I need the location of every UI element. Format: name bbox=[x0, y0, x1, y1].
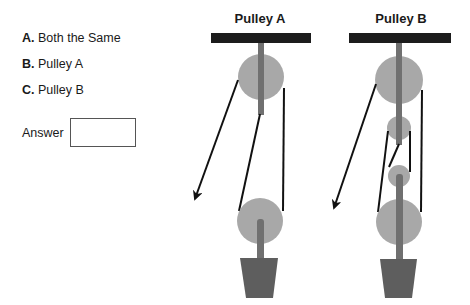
load-weight bbox=[380, 259, 417, 298]
load-weight bbox=[240, 258, 278, 298]
ceiling-beam bbox=[211, 33, 311, 43]
rope-segment bbox=[378, 131, 388, 212]
pulley-b-diagram bbox=[335, 33, 451, 298]
rope-segment bbox=[389, 144, 399, 167]
pulley-a-diagram bbox=[196, 33, 311, 298]
load-rod bbox=[257, 219, 264, 261]
pulley-diagrams bbox=[0, 0, 470, 305]
hanger-rod bbox=[396, 43, 402, 145]
load-rod bbox=[396, 174, 403, 262]
rope-segment bbox=[239, 114, 260, 211]
pull-arrow bbox=[196, 80, 238, 196]
rope-segment bbox=[421, 90, 422, 212]
ceiling-beam bbox=[349, 33, 451, 43]
hanger-rod bbox=[258, 43, 264, 115]
rope-segment bbox=[283, 88, 284, 211]
pull-arrow bbox=[335, 84, 376, 205]
